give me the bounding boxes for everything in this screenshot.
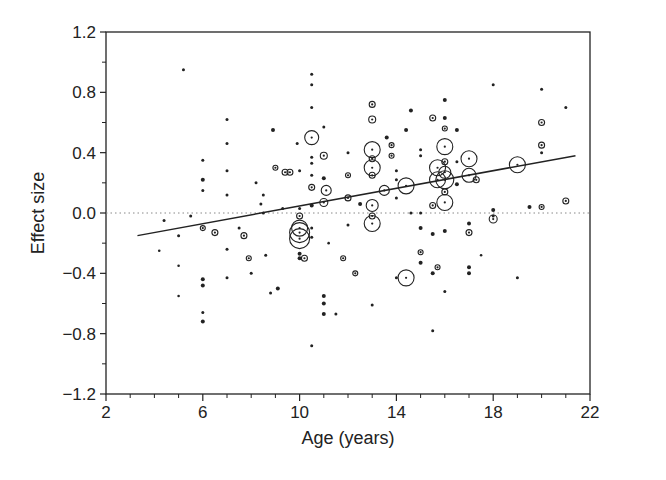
data-point <box>298 252 302 256</box>
data-point <box>358 202 362 206</box>
y-tick-label: −1.2 <box>62 385 96 404</box>
data-point <box>395 178 398 181</box>
y-tick-label: −0.8 <box>62 325 96 344</box>
data-point <box>310 156 313 159</box>
data-point <box>564 106 567 109</box>
data-point <box>491 208 495 212</box>
data-point <box>255 181 258 184</box>
y-axis: 1.20.80.40.0−0.4−0.8−1.2 <box>62 23 106 404</box>
data-point <box>226 248 229 251</box>
data-point <box>431 329 434 332</box>
data-point <box>540 88 543 91</box>
data-point <box>409 108 413 112</box>
data-point <box>480 254 483 257</box>
data-point <box>322 294 326 298</box>
data-point <box>540 151 543 154</box>
data-point <box>431 232 435 236</box>
data-point <box>409 212 412 215</box>
x-axis-title: Age (years) <box>301 428 394 448</box>
data-point <box>310 106 313 109</box>
x-axis: 2610141822 <box>101 394 599 422</box>
data-point <box>276 286 280 290</box>
y-tick-label: −0.4 <box>62 264 96 283</box>
data-point <box>516 276 519 279</box>
data-point <box>347 224 350 227</box>
data-point <box>419 148 422 151</box>
data-point <box>322 302 326 306</box>
data-point <box>259 202 262 205</box>
data-point <box>347 151 350 154</box>
data-point <box>250 272 253 275</box>
data-point <box>322 126 325 129</box>
data-point <box>443 229 447 233</box>
data-point <box>327 242 330 245</box>
data-point <box>404 128 408 132</box>
data-point <box>163 219 166 222</box>
data-point <box>419 226 423 230</box>
data-point <box>310 344 313 347</box>
data-point <box>182 68 185 71</box>
x-tick-label: 14 <box>387 403 406 422</box>
data-point <box>201 159 204 162</box>
data-point <box>455 182 459 186</box>
data-point <box>528 205 532 209</box>
data-point <box>201 178 205 182</box>
data-point <box>201 283 205 287</box>
x-tick-label: 2 <box>101 403 110 422</box>
data-point <box>310 73 313 76</box>
data-point <box>443 290 446 293</box>
data-point <box>322 176 326 180</box>
data-point <box>226 276 229 279</box>
data-point <box>238 227 241 230</box>
data-point <box>455 128 459 132</box>
data-point <box>467 265 471 269</box>
data-point <box>201 277 205 281</box>
scatter-chart: 1.20.80.40.0−0.4−0.8−1.2 2610141822 Age … <box>0 0 666 480</box>
data-point <box>467 271 471 275</box>
x-tick-label: 22 <box>581 403 600 422</box>
data-point <box>271 128 275 132</box>
data-point <box>296 142 299 145</box>
data-point <box>177 264 180 267</box>
data-point <box>395 276 398 279</box>
data-point <box>269 291 272 294</box>
y-axis-title: Effect size <box>28 172 48 255</box>
y-tick-label: 1.2 <box>72 23 96 42</box>
data-point <box>177 295 180 298</box>
data-point <box>419 261 423 265</box>
x-tick-label: 6 <box>198 403 207 422</box>
data-point <box>310 83 313 86</box>
data-point <box>455 160 458 163</box>
data-point <box>443 116 447 120</box>
data-point <box>226 142 229 145</box>
data-point <box>226 169 229 172</box>
data-point <box>395 169 398 172</box>
x-tick-label: 18 <box>484 403 503 422</box>
data-point <box>262 193 265 196</box>
y-tick-label: 0.4 <box>72 144 96 163</box>
data-point <box>226 193 229 196</box>
x-tick-label: 10 <box>290 403 309 422</box>
regression-line <box>137 156 575 236</box>
data-point <box>371 304 374 307</box>
data-point <box>431 271 435 275</box>
data-point <box>467 222 471 226</box>
data-point <box>298 207 301 210</box>
y-tick-label: 0.0 <box>72 204 96 223</box>
data-point <box>177 234 180 237</box>
data-point <box>395 196 398 199</box>
data-point <box>310 162 313 165</box>
data-point <box>226 118 229 121</box>
data-point <box>201 320 205 324</box>
data-point <box>201 189 204 192</box>
data-point <box>264 254 267 257</box>
y-tick-label: 0.8 <box>72 83 96 102</box>
data-point <box>201 311 204 314</box>
data-point <box>419 154 422 157</box>
data-point <box>298 169 301 172</box>
data-point <box>322 312 326 316</box>
data-point <box>385 136 389 140</box>
data-point <box>492 83 495 86</box>
data-point <box>189 215 192 218</box>
data-point <box>443 98 447 102</box>
